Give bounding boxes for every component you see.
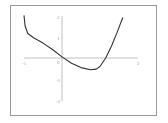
x-tick-label: 0 — [57, 60, 60, 65]
y-tick-label: -2 — [56, 99, 61, 104]
data-curve — [24, 15, 123, 69]
chart-plot: -1 0 2 2 1 -1 -2 — [0, 0, 168, 123]
y-tick-label: -1 — [56, 78, 61, 83]
x-tick-label: -1 — [22, 61, 27, 66]
y-tick-label: 2 — [57, 15, 60, 20]
y-tick-label: 1 — [57, 36, 60, 41]
x-tick-label: 2 — [137, 61, 140, 66]
